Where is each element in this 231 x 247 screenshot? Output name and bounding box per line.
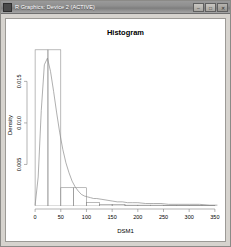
density-curve-group [35, 58, 217, 205]
r-graphics-icon [3, 3, 12, 12]
density-curve [35, 58, 217, 205]
histogram-bar [151, 205, 164, 206]
y-tick-label: 0.015 [16, 75, 22, 89]
x-tick-label: 250 [159, 214, 168, 220]
x-axis-label: DSM1 [117, 228, 134, 234]
x-tick-label: 300 [185, 214, 194, 220]
histogram-bar [125, 205, 138, 206]
minimize-button[interactable]: – [193, 3, 204, 12]
chart-title: Histogram [107, 28, 144, 37]
x-tick-label: 100 [82, 214, 91, 220]
window-controls: – □ ✕ [193, 3, 228, 12]
y-tick-label: 0.010 [16, 116, 22, 130]
graphics-client-area: Histogram050100150200250300350DSM10.0050… [5, 18, 226, 242]
histogram-bar [112, 204, 125, 206]
histogram-bar [35, 50, 48, 206]
x-tick-label: 50 [58, 214, 64, 220]
histogram-bar [99, 204, 112, 206]
histogram-bar [74, 188, 87, 206]
histogram-bar [138, 205, 151, 206]
x-axis: 050100150200250300350 [34, 209, 220, 220]
histogram-bar [61, 188, 74, 206]
y-axis: 0.0050.0100.015 [16, 75, 27, 172]
histogram-bar [86, 203, 99, 206]
maximize-button[interactable]: □ [205, 3, 216, 12]
x-tick-label: 0 [34, 214, 37, 220]
window-titlebar[interactable]: R Graphics: Device 2 (ACTIVE) – □ ✕ [1, 1, 230, 14]
x-tick-label: 200 [133, 214, 142, 220]
x-tick-label: 350 [210, 214, 219, 220]
r-graphics-window: R Graphics: Device 2 (ACTIVE) – □ ✕ Hist… [0, 0, 231, 247]
histogram-plot: Histogram050100150200250300350DSM10.0050… [6, 19, 225, 241]
window-title: R Graphics: Device 2 (ACTIVE) [15, 4, 193, 11]
histogram-bars [35, 50, 215, 206]
y-tick-label: 0.005 [16, 158, 22, 172]
y-axis-label: Density [7, 115, 13, 135]
close-button[interactable]: ✕ [217, 3, 228, 12]
x-tick-label: 150 [108, 214, 117, 220]
